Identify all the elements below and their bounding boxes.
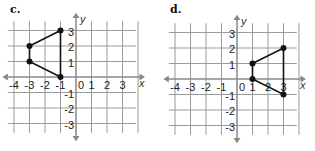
vertex-point (250, 76, 256, 82)
graph-c-plot: -4-3-2-10123321-1-2-3xy (0, 0, 157, 151)
y-tick-label: 2 (229, 43, 235, 55)
x-tick-label: -4 (170, 81, 180, 93)
vertex-point (27, 59, 33, 65)
x-tick-label: -4 (9, 79, 19, 91)
x-tick-label: 0 (78, 79, 84, 91)
x-tick-label: 1 (249, 81, 255, 93)
y-axis-label: y (240, 15, 248, 27)
x-tick-label: 1 (88, 79, 94, 91)
y-axis-down-arrow-icon (73, 136, 80, 141)
x-axis-left-arrow-icon (163, 76, 168, 83)
y-tick-label: 3 (229, 28, 235, 40)
x-axis-left-arrow-icon (2, 74, 7, 81)
y-tick-label: -2 (64, 103, 74, 115)
x-tick-label: -3 (25, 79, 35, 91)
graph-d-plot: -4-3-2-10123321-1-2-3xy (157, 0, 315, 151)
x-tick-label: -2 (40, 79, 50, 91)
vertex-point (281, 45, 287, 51)
x-axis-label: x (299, 79, 306, 91)
x-tick-label: -3 (186, 81, 196, 93)
vertex-point (250, 61, 256, 67)
graph-d: d. -4-3-2-10123321-1-2-3xy (157, 0, 315, 151)
y-tick-label: -3 (225, 121, 235, 133)
y-tick-label: -3 (64, 119, 74, 131)
y-tick-label: 3 (68, 26, 74, 38)
vertex-point (281, 92, 287, 98)
y-tick-label: -1 (64, 88, 74, 100)
x-tick-label: 0 (239, 81, 245, 93)
y-axis-up-arrow-icon (234, 15, 241, 20)
vertex-point (27, 43, 33, 49)
y-tick-label: 1 (68, 57, 74, 69)
y-tick-label: -2 (225, 105, 235, 117)
y-tick-label: -1 (225, 90, 235, 102)
x-tick-label: 3 (119, 79, 125, 91)
y-axis-up-arrow-icon (73, 13, 80, 18)
x-axis-label: x (138, 77, 145, 89)
y-axis-label: y (79, 13, 87, 25)
y-axis-down-arrow-icon (234, 138, 241, 143)
vertex-point (58, 74, 64, 80)
x-tick-label: 2 (104, 79, 110, 91)
x-tick-label: -2 (201, 81, 211, 93)
graph-c: c. -4-3-2-10123321-1-2-3xy (0, 0, 157, 151)
y-tick-label: 1 (229, 59, 235, 71)
y-tick-label: 2 (68, 41, 74, 53)
vertex-point (58, 28, 64, 34)
